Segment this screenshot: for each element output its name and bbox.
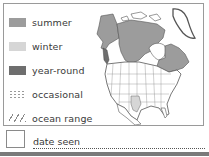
legend-label: winter [32, 41, 63, 52]
arctic-islands [121, 12, 161, 21]
ocean-range-hatch-icon [9, 114, 26, 122]
date-seen-label: date seen [33, 136, 80, 147]
greenland-outline [173, 9, 195, 38]
year-round-swatch-icon [9, 66, 26, 75]
pacific-coast-range [103, 48, 109, 64]
date-seen-checkbox[interactable] [6, 130, 25, 148]
summer-swatch-icon [9, 18, 26, 27]
winter-swatch-icon [9, 42, 26, 51]
legend-item-winter: winter [9, 39, 63, 53]
north-america-range-map [61, 4, 203, 125]
occasional-dotted-icon [9, 90, 26, 99]
bottom-divider [0, 152, 209, 156]
alaska-range [97, 14, 119, 50]
range-map-frame: summer winter year-round occasional ocea… [3, 3, 204, 126]
hudson-bay [149, 43, 166, 60]
date-seen-line[interactable] [33, 148, 205, 149]
